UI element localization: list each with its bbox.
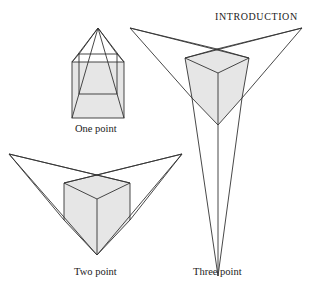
three-point-perspective-figure <box>130 28 302 276</box>
two-point-label: Two point <box>74 266 117 277</box>
three-point-label: Three point <box>193 266 242 277</box>
one-point-label: One point <box>75 123 117 134</box>
two-point-perspective-figure <box>9 154 182 255</box>
perspective-diagrams <box>0 0 322 289</box>
one-point-perspective-figure <box>72 28 124 118</box>
